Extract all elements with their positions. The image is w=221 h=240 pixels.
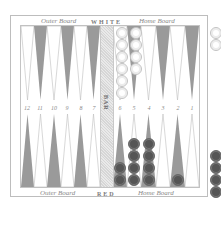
red-checker[interactable] <box>128 174 140 186</box>
point-22[interactable] <box>156 26 170 100</box>
white-checker[interactable] <box>116 75 128 87</box>
point-number-8: 8 <box>75 105 87 111</box>
point-number-5: 5 <box>128 105 140 111</box>
point-18[interactable] <box>87 26 100 100</box>
point-13[interactable] <box>21 26 34 100</box>
red-borne-off-checker <box>210 186 221 198</box>
red-checker[interactable] <box>114 162 126 174</box>
red-borne-off-checker <box>210 150 221 162</box>
bottom-points-left <box>21 114 100 187</box>
point-number-10: 10 <box>48 105 60 111</box>
point-17[interactable] <box>74 26 87 100</box>
white-checker[interactable] <box>130 63 142 75</box>
point-1[interactable] <box>185 114 199 187</box>
white-checker[interactable] <box>130 51 142 63</box>
red-checker[interactable] <box>128 162 140 174</box>
white-checker[interactable] <box>116 39 128 51</box>
red-checker[interactable] <box>128 138 140 150</box>
point-14[interactable] <box>34 26 47 100</box>
red-player-label: RED <box>97 190 116 198</box>
bottom-outer-board-label: Outer Board <box>40 189 75 197</box>
point-21[interactable] <box>141 26 156 100</box>
point-number-9: 9 <box>61 105 73 111</box>
top-points-left <box>21 26 100 100</box>
point-12[interactable] <box>21 114 34 187</box>
white-checker[interactable] <box>130 27 142 39</box>
point-number-1: 1 <box>186 105 198 111</box>
bar-label: BAR <box>102 95 110 111</box>
red-checker[interactable] <box>172 174 184 186</box>
point-number-11: 11 <box>34 105 46 111</box>
red-borne-off-checker <box>210 162 221 174</box>
point-11[interactable] <box>34 114 47 187</box>
point-16[interactable] <box>61 26 74 100</box>
white-checker[interactable] <box>116 27 128 39</box>
white-checker[interactable] <box>116 63 128 75</box>
point-number-6: 6 <box>114 105 126 111</box>
point-number-12: 12 <box>21 105 33 111</box>
point-8[interactable] <box>74 114 87 187</box>
red-checker[interactable] <box>143 150 155 162</box>
red-borne-off-checker <box>210 174 221 186</box>
point-7[interactable] <box>87 114 100 187</box>
red-checker[interactable] <box>128 150 140 162</box>
point-15[interactable] <box>47 26 61 100</box>
point-number-7: 7 <box>88 105 100 111</box>
point-24[interactable] <box>185 26 199 100</box>
point-number-2: 2 <box>172 105 184 111</box>
point-number-4: 4 <box>143 105 155 111</box>
white-borne-off-checker <box>210 39 221 51</box>
red-checker[interactable] <box>114 174 126 186</box>
red-checker[interactable] <box>143 138 155 150</box>
bottom-points-right <box>113 114 199 187</box>
point-23[interactable] <box>170 26 185 100</box>
white-borne-off-checker <box>210 27 221 39</box>
point-3[interactable] <box>156 114 170 187</box>
white-checker[interactable] <box>116 87 128 99</box>
red-checker[interactable] <box>143 162 155 174</box>
white-checker[interactable] <box>116 51 128 63</box>
red-checker[interactable] <box>143 174 155 186</box>
white-checker[interactable] <box>130 39 142 51</box>
bottom-home-board-label: Home Board <box>138 189 174 197</box>
point-10[interactable] <box>47 114 61 187</box>
point-9[interactable] <box>61 114 74 187</box>
point-number-3: 3 <box>157 105 169 111</box>
